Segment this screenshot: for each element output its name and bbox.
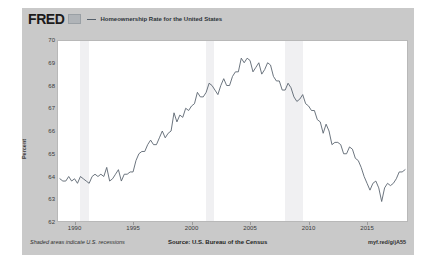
y-tick-label: 67 [25, 105, 55, 111]
fred-logo: FRED [28, 12, 65, 26]
y-tick-label: 62 [25, 219, 55, 225]
y-tick-label: 66 [25, 128, 55, 134]
recession-footnote: Shaded areas indicate U.S. recessions [30, 239, 125, 245]
x-tick-label: 2015 [360, 225, 373, 231]
source-footnote: Source: U.S. Bureau of the Census [168, 239, 267, 245]
fred-chart-card: FRED Homeownership Rate for the United S… [22, 8, 414, 255]
y-tick-label: 70 [25, 37, 55, 43]
x-tick-label: 1990 [68, 225, 81, 231]
x-axis: 199019952000200520102015 [57, 222, 408, 236]
y-tick-label: 65 [25, 151, 55, 157]
y-tick-label: 63 [25, 196, 55, 202]
y-tick-label: 64 [25, 174, 55, 180]
short-url-link[interactable]: myf.red/g/jA55 [368, 239, 406, 245]
y-tick-label: 69 [25, 60, 55, 66]
fred-graph-mark-icon [68, 14, 81, 24]
x-tick-label: 1995 [126, 225, 139, 231]
y-axis: Percent 706968676665646362 [22, 40, 55, 222]
fred-chart-screenshot: FRED Homeownership Rate for the United S… [0, 0, 436, 263]
legend-line-swatch [87, 19, 96, 20]
x-tick-label: 2005 [243, 225, 256, 231]
homeownership-rate-line [60, 58, 405, 201]
series-line-chart [57, 40, 408, 222]
chart-header: FRED Homeownership Rate for the United S… [22, 8, 414, 30]
chart-title: Homeownership Rate for the United States [101, 16, 223, 22]
chart-footer: Shaded areas indicate U.S. recessions So… [22, 237, 414, 253]
x-tick-label: 2000 [185, 225, 198, 231]
y-tick-label: 68 [25, 83, 55, 89]
plot-area [57, 40, 408, 222]
x-tick-label: 2010 [302, 225, 315, 231]
